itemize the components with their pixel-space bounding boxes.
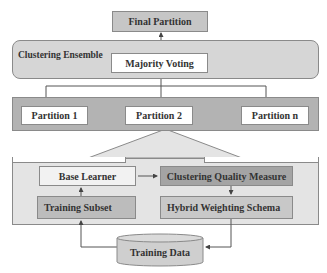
training-data-label: Training Data (130, 247, 190, 258)
training-data-cylinder (0, 0, 327, 273)
training-data-label-wrap: Training Data (117, 243, 203, 261)
